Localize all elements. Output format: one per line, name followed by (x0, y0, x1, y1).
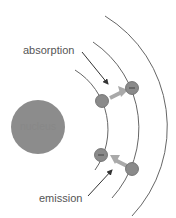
orbit-3 (105, 16, 167, 216)
electron-absorbed-end (126, 82, 139, 95)
bohr-model-diagram (0, 0, 176, 218)
emission-transition-arrow (115, 160, 127, 166)
emission-label: emission (39, 192, 82, 204)
nucleus-label: nucleus (10, 120, 66, 132)
absorption-photon-arrow (82, 52, 108, 84)
electron-emitted-end (95, 149, 108, 162)
absorption-label: absorption (23, 44, 74, 56)
electron-emitted-start (126, 163, 139, 176)
emission-photon-arrow (88, 170, 112, 196)
electron-absorbed-start (96, 95, 109, 108)
